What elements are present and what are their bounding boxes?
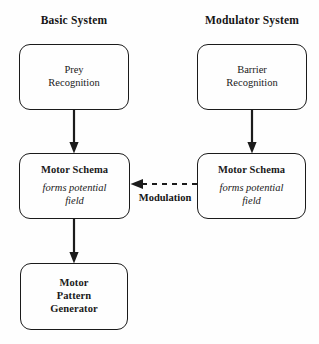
node-prey-recognition-line1: Prey (64, 64, 83, 77)
node-motor-schema-modulator-line1: forms potential (220, 182, 284, 195)
node-motor-schema-basic-line2: field (65, 195, 84, 208)
node-motor-schema-modulator[interactable]: Motor Schema forms potential field (197, 153, 306, 219)
node-motor-pattern-generator[interactable]: Motor Pattern Generator (20, 263, 128, 330)
node-prey-recognition[interactable]: Prey Recognition (19, 44, 129, 110)
node-motor-pattern-generator-line3: Generator (50, 303, 98, 316)
node-barrier-recognition-line2: Recognition (226, 77, 277, 90)
node-barrier-recognition[interactable]: Barrier Recognition (197, 44, 307, 110)
arrow-motor-schema-to-pattern-generator (69, 219, 78, 264)
node-motor-schema-modulator-heading: Motor Schema (218, 164, 285, 177)
node-barrier-recognition-line1: Barrier (237, 64, 267, 77)
node-motor-schema-basic[interactable]: Motor Schema forms potential field (19, 153, 130, 219)
column-title-basic-system: Basic System (19, 14, 129, 26)
node-motor-pattern-generator-line1: Motor (59, 277, 88, 290)
diagram-canvas: Basic System Modulator System Prey Recog… (0, 0, 319, 344)
node-prey-recognition-line2: Recognition (48, 77, 99, 90)
node-motor-schema-basic-line1: forms potential (43, 182, 107, 195)
node-motor-schema-basic-heading: Motor Schema (41, 164, 108, 177)
edge-label-modulation: Modulation (130, 192, 200, 203)
arrow-modulation-dashed (131, 179, 198, 189)
node-motor-schema-modulator-line2: field (242, 195, 261, 208)
arrow-barrier-to-motor-schema (247, 110, 256, 154)
node-motor-pattern-generator-line2: Pattern (57, 290, 92, 303)
column-title-modulator-system: Modulator System (197, 14, 307, 26)
arrow-prey-to-motor-schema (69, 110, 78, 154)
